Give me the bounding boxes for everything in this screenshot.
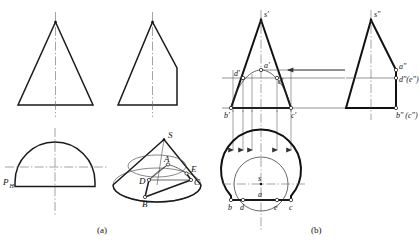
cone-base-front-arc xyxy=(113,185,201,202)
label-D: D xyxy=(138,176,146,186)
section-line-AD xyxy=(149,165,168,181)
view-side-truncated-cone xyxy=(118,12,177,117)
label-de-side: d"(e") xyxy=(399,75,419,84)
label-e-front: e' xyxy=(278,77,284,86)
point-d-front-marker xyxy=(241,76,244,79)
label-b-top: b xyxy=(228,203,232,212)
label-s-front: s' xyxy=(264,10,269,19)
section-edge-DB xyxy=(145,180,149,197)
point-e-top-marker xyxy=(275,198,278,201)
figure-canvas: P H xyxy=(0,0,419,250)
cone-side-outline xyxy=(118,22,177,105)
label-A: A xyxy=(163,154,170,164)
label-C: C xyxy=(194,177,201,187)
label-s-side: s" xyxy=(374,10,381,19)
point-S-marker xyxy=(163,138,166,141)
view-b-side-projection: s" a" d"(e") b" (c") xyxy=(346,10,419,120)
label-b-front: b' xyxy=(224,111,230,120)
view-front-plain-cone xyxy=(18,12,93,117)
view-pictorial-cone: S A E C D B xyxy=(113,130,201,209)
caption-panel-a: (a) xyxy=(97,225,107,235)
label-a-side: a" xyxy=(399,62,407,71)
cone-axis-line xyxy=(157,140,164,186)
point-D-marker xyxy=(147,178,150,181)
plane-label-P: P xyxy=(2,177,9,187)
point-bc-side-marker xyxy=(394,106,397,109)
label-a-front: a' xyxy=(264,61,270,70)
label-a-top: a xyxy=(258,190,262,199)
label-c-front: c' xyxy=(291,111,297,120)
section-edge-BC xyxy=(145,180,191,197)
label-bc-side: b" (c") xyxy=(396,111,418,120)
point-a-front-marker xyxy=(259,68,262,71)
point-de-side-marker xyxy=(394,76,397,79)
point-d-top-marker xyxy=(241,198,244,201)
cone-side-lines xyxy=(113,140,201,186)
point-C-marker xyxy=(189,178,192,181)
label-d-front: d' xyxy=(234,69,240,78)
point-c-top-marker xyxy=(289,198,292,201)
point-E-marker xyxy=(185,172,188,175)
label-E: E xyxy=(190,164,197,174)
label-c-top: c xyxy=(289,203,293,212)
point-a-side-marker xyxy=(394,68,397,71)
apex-point-side xyxy=(151,21,154,24)
engineering-drawing-figure: P H xyxy=(0,0,419,250)
label-B: B xyxy=(142,199,148,209)
plane-label-P-subscript: H xyxy=(9,183,15,189)
point-c-front-marker xyxy=(289,106,292,109)
view-b-front-projection: s' a' d' e' b' c' xyxy=(222,10,345,230)
label-e-top: e xyxy=(274,203,278,212)
label-S: S xyxy=(168,130,173,140)
label-s-top: s xyxy=(258,174,261,183)
point-s-side-marker xyxy=(370,19,373,22)
label-d-top: d xyxy=(240,203,245,212)
point-b-top-marker xyxy=(229,198,232,201)
view-top-cut-circle: P H xyxy=(2,128,108,216)
point-b-front-marker xyxy=(229,106,232,109)
view-b-top-projection: s a b d e c xyxy=(221,130,305,212)
point-s-front-marker xyxy=(260,19,263,22)
caption-panel-b: (b) xyxy=(311,225,322,235)
point-s-top-marker xyxy=(260,183,263,186)
apex-point xyxy=(54,21,57,24)
